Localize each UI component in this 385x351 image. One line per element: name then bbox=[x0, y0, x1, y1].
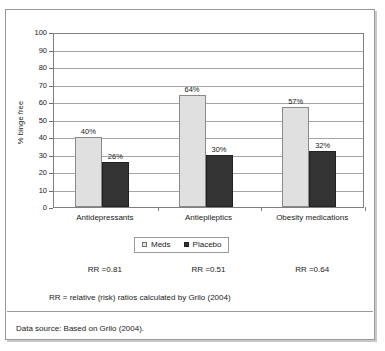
y-tick-label: 80 bbox=[13, 64, 47, 72]
legend-item-meds: Meds bbox=[142, 240, 171, 249]
rr-annotation: RR =0.64 bbox=[252, 265, 372, 274]
data-source-note: Data source: Based on Grilo (2004). bbox=[16, 324, 144, 333]
gridline bbox=[54, 33, 363, 34]
legend-label-placebo: Placebo bbox=[193, 240, 222, 249]
bar-value-label: 30% bbox=[196, 145, 242, 154]
y-tick-label: 100 bbox=[13, 29, 47, 37]
source-separator bbox=[7, 311, 373, 312]
gridline bbox=[54, 68, 363, 69]
rr-annotation: RR =0.51 bbox=[149, 265, 269, 274]
chart-block: % binge free 0102030405060708090100 40%2… bbox=[6, 10, 374, 300]
bar-value-label: 40% bbox=[65, 127, 111, 136]
bar-value-label: 57% bbox=[273, 97, 319, 106]
category-label: Obesity medications bbox=[252, 213, 372, 222]
y-tick-label: 50 bbox=[13, 117, 47, 125]
bar-value-label: 32% bbox=[300, 141, 346, 150]
y-tick-label: 90 bbox=[13, 47, 47, 55]
bar-meds bbox=[75, 137, 102, 207]
legend-swatch-placebo-icon bbox=[184, 242, 189, 247]
y-tick-label: 60 bbox=[13, 99, 47, 107]
bar-placebo bbox=[102, 162, 129, 208]
gridline bbox=[54, 121, 363, 122]
legend-swatch-meds-icon bbox=[142, 242, 147, 247]
x-tick-mark bbox=[261, 207, 262, 211]
gridline bbox=[54, 51, 363, 52]
bar-value-label: 64% bbox=[169, 85, 215, 94]
category-label: Antiepileptics bbox=[149, 213, 269, 222]
y-tick-label: 20 bbox=[13, 169, 47, 177]
bar-meds bbox=[282, 107, 309, 207]
y-tick-label: 10 bbox=[13, 187, 47, 195]
plot-area: 40%26%64%30%57%32% bbox=[53, 33, 364, 208]
bar-value-label: 26% bbox=[92, 152, 138, 161]
x-tick-mark bbox=[365, 207, 366, 211]
legend-label-meds: Meds bbox=[151, 240, 171, 249]
figure-frame: % binge free 0102030405060708090100 40%2… bbox=[5, 9, 375, 340]
chart-legend: Meds Placebo bbox=[134, 237, 229, 253]
y-tick-label: 0 bbox=[13, 204, 47, 212]
y-tick-mark bbox=[49, 208, 53, 209]
rr-annotation: RR =0.81 bbox=[45, 265, 165, 274]
y-tick-label: 40 bbox=[13, 134, 47, 142]
legend-item-placebo: Placebo bbox=[184, 240, 222, 249]
y-tick-label: 70 bbox=[13, 82, 47, 90]
y-tick-label: 30 bbox=[13, 152, 47, 160]
bar-placebo bbox=[206, 155, 233, 208]
bar-placebo bbox=[309, 151, 336, 207]
rr-footnote: RR = relative (risk) ratios calculated b… bbox=[49, 293, 231, 302]
x-tick-mark bbox=[158, 207, 159, 211]
category-label: Antidepressants bbox=[45, 213, 165, 222]
